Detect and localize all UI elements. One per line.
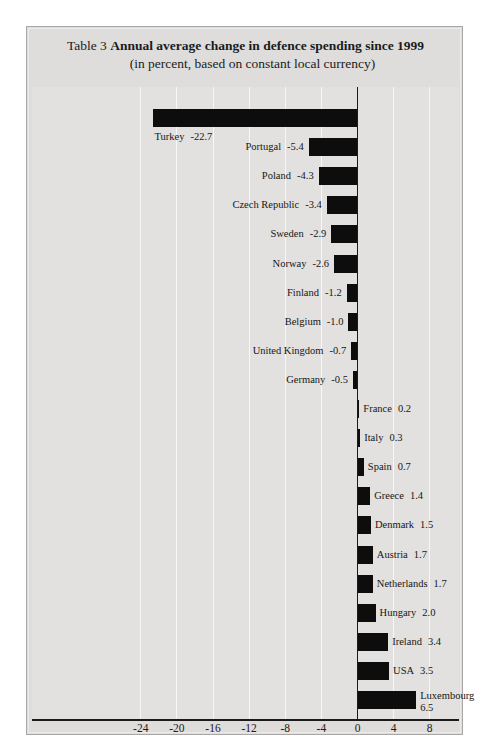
bar-label-ireland: Ireland3.4 xyxy=(392,633,441,651)
bar-label-austria: Austria1.7 xyxy=(377,546,427,564)
bar-row: Denmark1.5 xyxy=(32,516,459,534)
x-tick--16: -16 xyxy=(205,722,220,734)
bar-row: Italy0.3 xyxy=(32,429,459,447)
bar-netherlands[interactable] xyxy=(358,575,373,593)
bar-label-germany: Germany-0.5 xyxy=(32,371,348,389)
bar-united-kingdom[interactable] xyxy=(351,342,357,360)
bar-label-finland: Finland-1.2 xyxy=(32,284,342,302)
chart-page: Table 3 Annual average change in defence… xyxy=(0,0,488,753)
bar-row: Finland-1.2 xyxy=(32,284,459,302)
x-tick--24: -24 xyxy=(133,722,148,734)
bar-row: Portugal-5.4 xyxy=(32,138,459,156)
x-axis-tick-labels: -24-20-16-12-8-4048 xyxy=(32,722,459,742)
bar-row: Luxembourg6.5 xyxy=(32,691,459,709)
bar-row: USA3.5 xyxy=(32,662,459,680)
bar-label-portugal: Portugal-5.4 xyxy=(32,138,304,156)
x-tick-4: 4 xyxy=(391,722,397,734)
bar-finland[interactable] xyxy=(347,284,358,302)
chart-header: Table 3 Annual average change in defence… xyxy=(27,37,464,73)
bar-norway[interactable] xyxy=(334,255,357,273)
bar-row: Greece1.4 xyxy=(32,487,459,505)
bar-label-sweden: Sweden-2.9 xyxy=(32,225,326,243)
bar-sweden[interactable] xyxy=(331,225,357,243)
x-axis-line xyxy=(32,719,459,721)
page-title: Table 3 Annual average change in defence… xyxy=(27,37,464,55)
bar-label-netherlands: Netherlands1.7 xyxy=(377,575,447,593)
bar-label-spain: Spain0.7 xyxy=(368,458,411,476)
bar-row: United Kingdom-0.7 xyxy=(32,342,459,360)
plot-area: Turkey-22.7Portugal-5.4Poland-4.3Czech R… xyxy=(32,87,459,719)
bar-row: France0.2 xyxy=(32,400,459,418)
bar-row: Germany-0.5 xyxy=(32,371,459,389)
x-tick-0: 0 xyxy=(355,722,361,734)
bar-label-greece: Greece1.4 xyxy=(374,487,423,505)
bar-row: Belgium-1.0 xyxy=(32,313,459,331)
bar-row: Czech Republic-3.4 xyxy=(32,196,459,214)
bar-row: Norway-2.6 xyxy=(32,255,459,273)
x-tick--8: -8 xyxy=(280,722,290,734)
bar-usa[interactable] xyxy=(358,662,390,680)
chart-panel: Table 3 Annual average change in defence… xyxy=(26,26,463,735)
x-tick--20: -20 xyxy=(169,722,184,734)
bar-row: Sweden-2.9 xyxy=(32,225,459,243)
bar-austria[interactable] xyxy=(358,546,373,564)
bar-ireland[interactable] xyxy=(358,633,389,651)
chart-title: Annual average change in defence spendin… xyxy=(110,38,424,53)
bar-belgium[interactable] xyxy=(348,313,357,331)
bar-label-czech-republic: Czech Republic-3.4 xyxy=(32,196,322,214)
bar-turkey[interactable] xyxy=(153,109,358,127)
x-tick-8: 8 xyxy=(427,722,433,734)
bar-label-poland: Poland-4.3 xyxy=(32,167,314,185)
bar-czech-republic[interactable] xyxy=(327,196,358,214)
bar-portugal[interactable] xyxy=(309,138,358,156)
bar-row: Spain0.7 xyxy=(32,458,459,476)
bar-row: Netherlands1.7 xyxy=(32,575,459,593)
bar-label-denmark: Denmark1.5 xyxy=(375,516,433,534)
bar-row: Austria1.7 xyxy=(32,546,459,564)
bar-france[interactable] xyxy=(358,400,360,418)
x-tick--4: -4 xyxy=(317,722,327,734)
bar-greece[interactable] xyxy=(358,487,371,505)
x-tick--12: -12 xyxy=(241,722,256,734)
bar-row: Poland-4.3 xyxy=(32,167,459,185)
bar-denmark[interactable] xyxy=(358,516,372,534)
bar-label-norway: Norway-2.6 xyxy=(32,255,329,273)
bar-label-france: France0.2 xyxy=(363,400,411,418)
table-number-label: Table 3 xyxy=(67,38,107,53)
bar-label-hungary: Hungary2.0 xyxy=(380,604,436,622)
bar-germany[interactable] xyxy=(353,371,358,389)
bar-hungary[interactable] xyxy=(358,604,376,622)
chart-subtitle: (in percent, based on constant local cur… xyxy=(27,55,464,73)
bar-italy[interactable] xyxy=(358,429,361,447)
bar-poland[interactable] xyxy=(319,167,358,185)
bar-row: Hungary2.0 xyxy=(32,604,459,622)
bar-luxembourg[interactable] xyxy=(358,691,417,709)
bar-label-luxembourg: Luxembourg6.5 xyxy=(420,690,480,708)
bar-label-italy: Italy0.3 xyxy=(364,429,402,447)
bar-row: Ireland3.4 xyxy=(32,633,459,651)
bar-spain[interactable] xyxy=(358,458,364,476)
bar-row: Turkey-22.7 xyxy=(32,109,459,127)
bar-label-belgium: Belgium-1.0 xyxy=(32,313,343,331)
bar-series: Turkey-22.7Portugal-5.4Poland-4.3Czech R… xyxy=(32,87,459,719)
bar-label-usa: USA3.5 xyxy=(393,662,433,680)
bar-label-united-kingdom: United Kingdom-0.7 xyxy=(32,342,346,360)
